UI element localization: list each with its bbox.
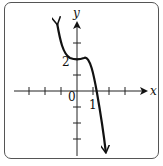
y-axis-label: y (72, 6, 80, 20)
y-tick-label-2: 2 (62, 55, 70, 69)
cubic-graph: y x 0 1 2 (0, 0, 163, 166)
origin-label: 0 (68, 90, 76, 104)
x-axis-label: x (150, 84, 157, 98)
cubic-curve (57, 24, 106, 152)
x-tick-label-1: 1 (89, 98, 97, 112)
